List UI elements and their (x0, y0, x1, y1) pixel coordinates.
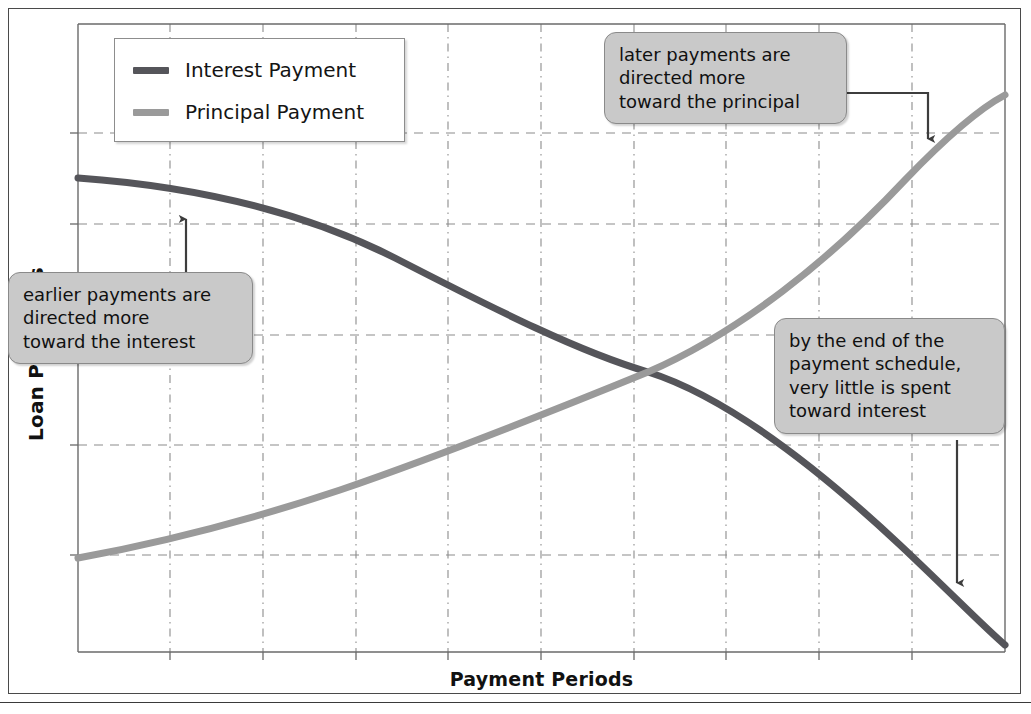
legend-swatch-principal-icon (133, 109, 169, 116)
legend-label-principal: Principal Payment (185, 100, 364, 124)
annotation-callout-earlier: earlier payments are directed more towar… (8, 272, 253, 364)
annotation-earlier-line-2: directed more (23, 306, 238, 329)
chart-legend: Interest Payment Principal Payment (114, 38, 405, 142)
annotation-earlier-line-1: earlier payments are (23, 283, 238, 306)
legend-label-interest: Interest Payment (185, 58, 356, 82)
annotation-later-line-1: later payments are (619, 43, 832, 66)
annotation-later-line-3: toward the principal (619, 90, 832, 113)
legend-item-principal-payment[interactable]: Principal Payment (115, 91, 404, 133)
legend-item-interest-payment[interactable]: Interest Payment (115, 49, 404, 91)
annotation-end-line-4: toward interest (789, 399, 990, 422)
x-axis-title: Payment Periods (78, 668, 1005, 690)
annotation-callout-end-of-schedule: by the end of the payment schedule, very… (774, 318, 1005, 434)
legend-swatch-interest-icon (133, 67, 169, 74)
annotation-callout-later: later payments are directed more toward … (604, 32, 847, 124)
annotation-later-line-2: directed more (619, 66, 832, 89)
annotation-end-line-1: by the end of the (789, 329, 990, 352)
annotation-earlier-line-3: toward the interest (23, 330, 238, 353)
loan-amortization-chart: Loan Payments Payment Periods Interest P… (0, 0, 1031, 714)
annotation-end-line-3: very little is spent (789, 376, 990, 399)
annotation-end-line-2: payment schedule, (789, 352, 990, 375)
